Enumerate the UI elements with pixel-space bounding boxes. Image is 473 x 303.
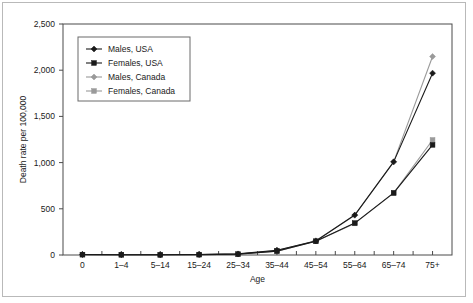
x-axis-tick-label: 45–54: [304, 260, 328, 270]
legend-marker-4: [92, 89, 97, 94]
x-axis-tick-label: 35–44: [265, 260, 289, 270]
y-axis-tick-label: 1,000: [34, 158, 56, 168]
data-point: [430, 54, 436, 60]
x-axis-tick-label: 25–34: [226, 260, 250, 270]
y-axis-tick-label: 500: [41, 204, 55, 214]
data-point: [352, 221, 357, 226]
legend-marker-2: [92, 61, 97, 66]
x-axis-tick-label: 5–14: [151, 260, 170, 270]
data-point: [430, 70, 436, 76]
x-axis-title: Age: [250, 274, 265, 284]
data-point: [80, 252, 85, 257]
x-axis-tick-label: 55–64: [343, 260, 367, 270]
series-females-canada: [80, 138, 435, 258]
data-point: [275, 249, 280, 254]
x-axis-tick-label: 15–24: [187, 260, 211, 270]
x-axis-tick-label: 75+: [425, 260, 439, 270]
data-point: [313, 239, 318, 244]
series-line: [82, 140, 432, 255]
y-axis-tick-label: 0: [50, 250, 55, 260]
series-females-usa: [80, 142, 435, 257]
data-point: [158, 252, 163, 257]
series-line: [82, 145, 432, 255]
x-axis-tick-label: 0: [80, 260, 85, 270]
data-point: [430, 142, 435, 147]
legend-label-2: Females, USA: [108, 58, 163, 68]
legend-label-3: Males, Canada: [108, 72, 165, 82]
x-axis-tick-label: 1–4: [114, 260, 128, 270]
x-axis-tick-label: 65–74: [382, 260, 406, 270]
data-point: [236, 252, 241, 257]
legend-label-1: Males, USA: [108, 44, 153, 54]
data-point: [119, 252, 124, 257]
data-point: [430, 138, 435, 143]
data-point: [391, 191, 396, 196]
legend: Males, USAFemales, USAMales, CanadaFemal…: [78, 37, 190, 101]
y-axis-tick-label: 2,000: [34, 65, 56, 75]
y-axis-title: Death rate per 100,000: [18, 96, 28, 184]
data-point: [197, 252, 202, 257]
death-rate-by-age-line-chart: 05001,0001,5002,0002,50001–45–1415–2425–…: [0, 0, 473, 303]
y-axis-tick-label: 2,500: [34, 19, 56, 29]
legend-label-4: Females, Canada: [108, 86, 175, 96]
y-axis-tick-label: 1,500: [34, 111, 56, 121]
